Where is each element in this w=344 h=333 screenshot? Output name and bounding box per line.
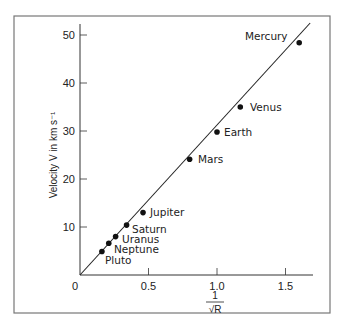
point-earth bbox=[214, 129, 220, 135]
y-tick-label: 20 bbox=[63, 173, 75, 185]
point-venus bbox=[237, 104, 243, 110]
point-jupiter bbox=[140, 210, 146, 216]
point-uranus bbox=[113, 234, 119, 240]
origin-label: 0 bbox=[72, 280, 78, 292]
label-jupiter: Jupiter bbox=[149, 206, 185, 218]
y-tick-label: 10 bbox=[63, 221, 75, 233]
y-axis-title: Velocity V in km s⁻¹ bbox=[48, 111, 59, 198]
x-tick-label: 1.5 bbox=[278, 280, 293, 292]
point-pluto bbox=[99, 249, 105, 255]
label-mars: Mars bbox=[198, 153, 223, 165]
point-mars bbox=[187, 157, 193, 163]
label-venus: Venus bbox=[250, 101, 282, 113]
x-axis-ticks: 0.51.01.5 bbox=[141, 268, 293, 292]
y-tick-label: 50 bbox=[63, 29, 75, 41]
chart-frame bbox=[14, 16, 330, 313]
y-axis-ticks: 1020304050 bbox=[63, 29, 87, 233]
chart-canvas: 1020304050 0.51.01.5 0 Mercury Venus Ear… bbox=[0, 0, 344, 333]
point-saturn bbox=[124, 222, 130, 228]
point-neptune bbox=[106, 241, 112, 247]
data-points bbox=[99, 40, 302, 254]
label-mercury: Mercury bbox=[245, 30, 288, 42]
label-earth: Earth bbox=[224, 126, 252, 138]
x-axis-title-denominator: √R bbox=[209, 304, 222, 315]
x-tick-label: 0.5 bbox=[141, 280, 156, 292]
y-tick-label: 40 bbox=[63, 77, 75, 89]
point-mercury bbox=[296, 40, 302, 46]
y-tick-label: 30 bbox=[63, 125, 75, 137]
x-axis-title-numerator: 1 bbox=[212, 290, 218, 301]
label-pluto: Pluto bbox=[105, 254, 131, 266]
